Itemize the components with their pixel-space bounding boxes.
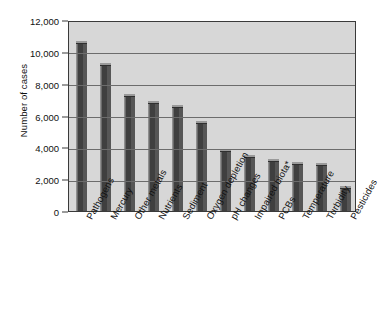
x-tick-label: Mercury <box>108 185 135 221</box>
x-tick-label: PCBs <box>276 194 298 221</box>
x-tick-label: Pesticides <box>348 177 379 221</box>
